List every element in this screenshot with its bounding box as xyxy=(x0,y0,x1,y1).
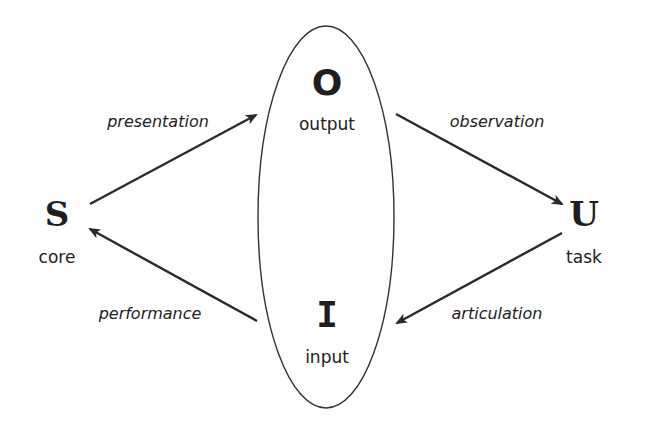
node-i-label: input xyxy=(305,349,349,366)
node-s-label: core xyxy=(39,249,76,266)
interaction-framework-diagram: S core O output I input U task presentat… xyxy=(0,0,648,428)
edge-label-presentation: presentation xyxy=(107,114,209,130)
node-i-letter: I xyxy=(316,297,338,333)
edge-label-performance: performance xyxy=(99,306,202,322)
edge-label-articulation: articulation xyxy=(452,306,543,322)
node-o-label: output xyxy=(299,116,355,133)
node-o-letter: O xyxy=(312,65,343,101)
edge-label-observation: observation xyxy=(450,114,545,130)
node-u-letter: U xyxy=(569,197,599,231)
node-s-letter: S xyxy=(45,197,70,231)
node-u-label: task xyxy=(566,249,602,266)
